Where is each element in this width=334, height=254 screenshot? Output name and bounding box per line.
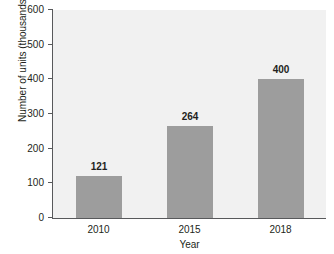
x-axis-tick-label: 2010: [69, 224, 129, 236]
y-axis-title: Number of units (thousands): [16, 0, 30, 144]
y-axis-tick-label: 300: [4, 108, 44, 120]
bar-value-label: 400: [238, 64, 324, 76]
x-axis-tick-label: 2018: [251, 224, 311, 236]
y-axis-tick: 300: [0, 108, 53, 120]
y-axis-tick-label: 200: [4, 143, 44, 155]
y-axis-tick-mark: [48, 148, 53, 149]
bar: [76, 176, 122, 218]
bar-value-label: 264: [147, 111, 233, 123]
bar: [167, 126, 213, 218]
y-axis-tick: 600: [0, 4, 53, 16]
y-axis-tick-mark: [48, 44, 53, 45]
x-axis-tick-label: 2015: [160, 224, 220, 236]
y-axis-tick-mark: [48, 9, 53, 10]
bar-value-label: 121: [56, 161, 142, 173]
y-axis-tick-mark: [48, 113, 53, 114]
y-axis-tick-label: 0: [4, 212, 44, 224]
x-axis-line: [52, 218, 326, 219]
y-axis-tick-label: 400: [4, 73, 44, 85]
y-axis-tick: 100: [0, 177, 53, 189]
bar-chart: Number of units (thousands) 010020030040…: [0, 0, 334, 254]
y-axis-tick-label: 100: [4, 177, 44, 189]
y-axis-tick-label: 500: [4, 39, 44, 51]
y-axis-tick-mark: [48, 78, 53, 79]
y-axis-tick-label: 600: [4, 4, 44, 16]
y-axis-tick-mark: [48, 217, 53, 218]
y-axis-tick-mark: [48, 182, 53, 183]
y-axis-tick: 500: [0, 39, 53, 51]
y-axis-tick: 400: [0, 73, 53, 85]
y-axis-tick: 200: [0, 143, 53, 155]
y-axis-tick: 0: [0, 212, 53, 224]
bar: [258, 79, 304, 218]
x-axis-title: Year: [53, 239, 326, 251]
